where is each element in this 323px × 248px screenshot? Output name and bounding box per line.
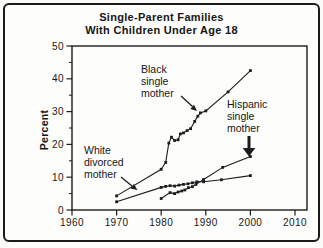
data-point-black-single-mother (186, 129, 189, 132)
data-point-white-divorced-mother (164, 185, 167, 188)
data-point-white-divorced-mother (249, 174, 252, 177)
chart-screenshot: Single-Parent Families With Children Und… (0, 0, 323, 248)
annotation-line: divorced (84, 156, 124, 168)
x-axis-tick-label: 1960 (60, 217, 84, 228)
data-point-black-single-mother (182, 132, 185, 135)
data-point-hispanic-single-mother (202, 178, 205, 181)
data-point-black-single-mother (177, 138, 180, 141)
data-point-black-single-mother (179, 133, 182, 136)
data-point-white-divorced-mother (220, 178, 223, 181)
data-point-black-single-mother (189, 127, 192, 130)
annotation-black-single-mother: Black single mother (141, 63, 174, 99)
black-single-mother-arrow (181, 96, 197, 111)
annotation-line: single (141, 75, 174, 87)
hispanic-single-mother-arrow (243, 136, 256, 157)
data-point-white-divorced-mother (191, 181, 194, 184)
annotation-line: mother (84, 168, 124, 180)
data-point-black-single-mother (164, 161, 167, 164)
data-point-black-single-mother (167, 142, 170, 145)
data-point-black-single-mother (115, 195, 118, 198)
annotation-line: Black (141, 63, 174, 75)
data-point-black-single-mother (204, 110, 207, 113)
annotation-line: Hispanic (227, 98, 267, 110)
data-point-hispanic-single-mother (249, 155, 252, 158)
y-axis-tick-label: 50 (52, 41, 64, 52)
data-point-black-single-mother (227, 91, 230, 94)
x-axis-tick-label: 2000 (238, 217, 262, 228)
data-point-white-divorced-mother (187, 182, 190, 185)
chart-plot: 19601970198019902000201001020304050 (0, 0, 323, 248)
x-axis-tick-label: 1980 (149, 217, 173, 228)
data-point-black-single-mother (193, 120, 196, 123)
data-point-hispanic-single-mother (160, 197, 163, 200)
y-axis-tick-label: 40 (52, 73, 64, 84)
x-axis-tick-label: 1990 (194, 217, 218, 228)
data-point-black-single-mother (199, 112, 202, 115)
data-point-hispanic-single-mother (183, 189, 186, 192)
y-axis-tick-label: 20 (52, 139, 64, 150)
annotation-line: White (84, 144, 124, 156)
annotation-line: mother (227, 122, 267, 134)
data-point-hispanic-single-mother (169, 191, 172, 194)
data-point-hispanic-single-mother (221, 166, 224, 169)
data-point-black-single-mother (249, 69, 252, 72)
annotation-line: mother (141, 87, 174, 99)
data-point-white-divorced-mother (173, 185, 176, 188)
data-point-white-divorced-mother (115, 200, 118, 203)
data-point-white-divorced-mother (178, 184, 181, 187)
annotation-white-divorced-mother: White divorced mother (84, 144, 124, 180)
data-point-hispanic-single-mother (195, 183, 198, 186)
data-point-white-divorced-mother (182, 183, 185, 186)
data-point-hispanic-single-mother (180, 190, 183, 193)
data-point-white-divorced-mother (169, 184, 172, 187)
data-point-black-single-mother (173, 139, 176, 142)
y-axis-tick-label: 10 (52, 172, 64, 183)
data-point-hispanic-single-mother (173, 192, 176, 195)
annotation-line: single (227, 110, 267, 122)
x-axis-tick-label: 2010 (283, 217, 307, 228)
annotation-hispanic-single-mother: Hispanic single mother (227, 98, 267, 134)
data-point-black-single-mother (170, 136, 173, 139)
x-axis-tick-label: 1970 (105, 217, 129, 228)
data-point-black-single-mother (196, 115, 199, 118)
y-axis-tick-label: 30 (52, 106, 64, 117)
data-point-hispanic-single-mother (191, 185, 194, 188)
data-point-black-single-mother (160, 168, 163, 171)
data-point-hispanic-single-mother (187, 186, 190, 189)
y-axis-tick-label: 0 (58, 205, 64, 216)
data-point-hispanic-single-mother (177, 191, 180, 194)
data-point-white-divorced-mother (160, 186, 163, 189)
